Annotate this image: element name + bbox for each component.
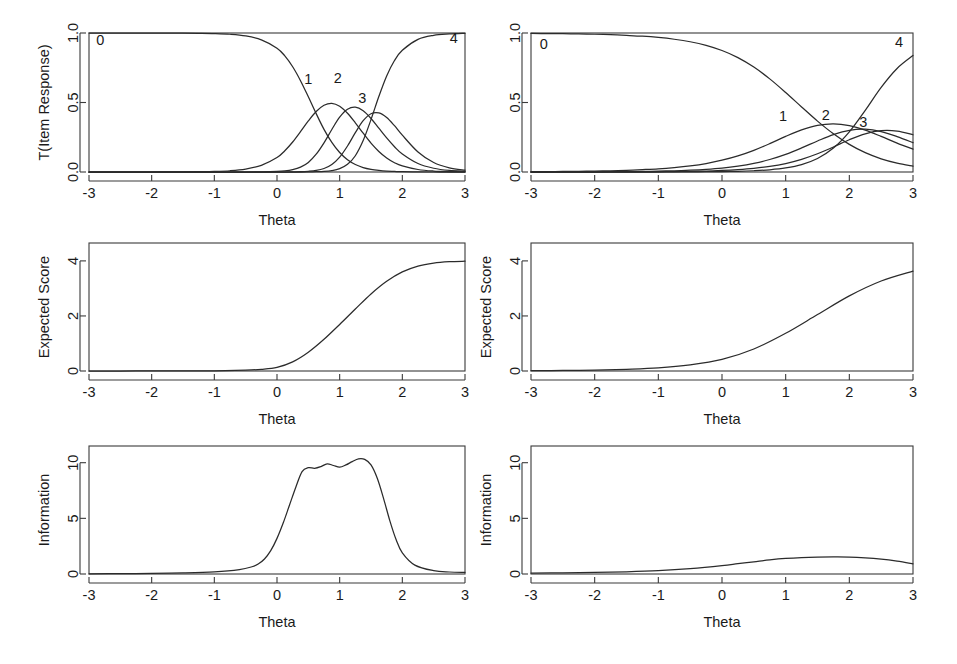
curve-category-label: 2 <box>822 107 830 123</box>
data-curve <box>531 130 913 172</box>
x-axis-tick-label: -1 <box>208 587 221 603</box>
curve-category-label: 0 <box>96 32 104 48</box>
x-axis-tick-label: 1 <box>782 384 790 400</box>
panel-information-item-1: -3-2-101230510InformationTheta <box>27 432 479 632</box>
data-curve <box>89 103 465 172</box>
panel-information-item-2: -3-2-101230510InformationTheta <box>469 432 927 632</box>
x-axis-tick-label: 3 <box>909 185 917 201</box>
data-curve <box>89 261 465 371</box>
panel-trace-lines-item-1: -3-2-101230.00.51.0T(Item Response)Theta… <box>27 19 479 230</box>
x-axis-tick-label: -3 <box>83 185 96 201</box>
x-axis-tick-label: -3 <box>525 587 538 603</box>
x-axis-title: Theta <box>258 411 296 427</box>
x-axis-tick-label: 0 <box>718 587 726 603</box>
x-axis-tick-label: 2 <box>398 384 406 400</box>
y-axis-tick-label: 4 <box>507 257 523 265</box>
y-axis-tick-label: 0.0 <box>507 162 523 182</box>
curve-category-label: 0 <box>540 36 548 52</box>
x-axis-tick-label: -2 <box>145 185 158 201</box>
y-axis-tick-label: 5 <box>507 514 523 522</box>
x-axis-tick-label: 2 <box>845 384 853 400</box>
plot-frame <box>89 243 465 371</box>
x-axis-tick-label: 3 <box>461 185 469 201</box>
x-axis-title: Theta <box>703 614 741 630</box>
y-axis-title: Information <box>36 474 52 547</box>
x-axis-tick-label: 1 <box>336 384 344 400</box>
x-axis-tick-label: 3 <box>909 587 917 603</box>
y-axis-tick-label: 0.5 <box>507 92 523 112</box>
x-axis-tick-label: -2 <box>588 185 601 201</box>
x-axis-tick-label: 0 <box>718 384 726 400</box>
curve-category-label: 1 <box>779 108 787 124</box>
x-axis-tick-label: 2 <box>845 185 853 201</box>
data-curve <box>531 56 913 172</box>
y-axis-tick-label: 1.0 <box>507 23 523 43</box>
x-axis-tick-label: 2 <box>398 185 406 201</box>
data-curve <box>89 33 465 172</box>
x-axis-tick-label: 0 <box>273 185 281 201</box>
panel-expected-score-item-1: -3-2-10123024Expected ScoreTheta <box>27 229 479 429</box>
x-axis-tick-label: -2 <box>588 587 601 603</box>
x-axis-tick-label: -2 <box>145 587 158 603</box>
x-axis-tick-label: -3 <box>525 384 538 400</box>
y-axis-tick-label: 0 <box>65 570 81 578</box>
data-curve <box>531 129 913 172</box>
x-axis-tick-label: -3 <box>83 384 96 400</box>
y-axis-title: T(Item Response) <box>36 44 52 160</box>
curve-category-label: 2 <box>334 70 342 86</box>
x-axis-tick-label: -1 <box>208 185 221 201</box>
y-axis-title: Expected Score <box>36 256 52 358</box>
y-axis-tick-label: 0.0 <box>65 162 81 182</box>
y-axis-tick-label: 0 <box>65 367 81 375</box>
irt-panel-figure: -3-2-101230.00.51.0T(Item Response)Theta… <box>0 0 957 664</box>
x-axis-tick-label: -3 <box>83 587 96 603</box>
x-axis-tick-label: -1 <box>652 384 665 400</box>
data-curve <box>531 271 913 371</box>
x-axis-tick-label: -2 <box>145 384 158 400</box>
data-curve <box>89 33 465 172</box>
x-axis-title: Theta <box>703 212 741 228</box>
plot-frame <box>89 33 465 172</box>
x-axis-tick-label: -1 <box>652 185 665 201</box>
curve-category-label: 3 <box>358 90 366 106</box>
plot-frame <box>531 243 913 371</box>
curve-category-label: 3 <box>859 114 867 130</box>
x-axis-tick-label: -2 <box>588 384 601 400</box>
x-axis-tick-label: 2 <box>398 587 406 603</box>
panel-expected-score-item-2: -3-2-10123024Expected ScoreTheta <box>469 229 927 429</box>
y-axis-tick-label: 2 <box>65 312 81 320</box>
y-axis-tick-label: 10 <box>65 455 81 471</box>
y-axis-tick-label: 0.5 <box>65 92 81 112</box>
data-curve <box>531 557 913 573</box>
x-axis-tick-label: 0 <box>273 384 281 400</box>
y-axis-tick-label: 2 <box>507 312 523 320</box>
panel-trace-lines-item-2: -3-2-101230.00.51.0Theta01234 <box>469 19 927 230</box>
x-axis-tick-label: 2 <box>845 587 853 603</box>
data-curve <box>531 33 913 166</box>
curve-category-label: 4 <box>450 30 458 46</box>
x-axis-tick-label: 1 <box>336 185 344 201</box>
plot-frame <box>531 33 913 172</box>
x-axis-tick-label: 1 <box>336 587 344 603</box>
x-axis-tick-label: 1 <box>782 185 790 201</box>
y-axis-tick-label: 1.0 <box>65 23 81 43</box>
data-curve <box>89 113 465 172</box>
x-axis-tick-label: 3 <box>461 587 469 603</box>
data-curve <box>89 459 465 574</box>
x-axis-tick-label: 1 <box>782 587 790 603</box>
y-axis-tick-label: 10 <box>507 455 523 471</box>
x-axis-tick-label: -1 <box>652 587 665 603</box>
x-axis-tick-label: -1 <box>208 384 221 400</box>
curve-category-label: 1 <box>304 71 312 87</box>
plot-frame <box>531 446 913 574</box>
y-axis-title: Information <box>478 474 494 547</box>
x-axis-tick-label: 0 <box>718 185 726 201</box>
plot-frame <box>89 446 465 574</box>
y-axis-title: Expected Score <box>478 256 494 358</box>
y-axis-tick-label: 0 <box>507 367 523 375</box>
x-axis-title: Theta <box>258 614 296 630</box>
y-axis-tick-label: 5 <box>65 514 81 522</box>
y-axis-tick-label: 0 <box>507 570 523 578</box>
x-axis-tick-label: 0 <box>273 587 281 603</box>
x-axis-tick-label: 3 <box>909 384 917 400</box>
